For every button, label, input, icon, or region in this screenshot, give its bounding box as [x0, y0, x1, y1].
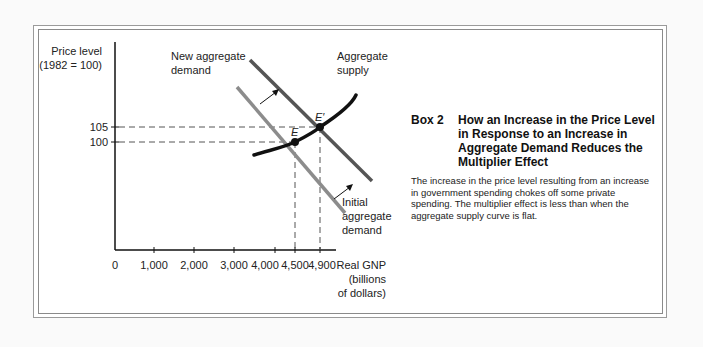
- y-tick-label-100: 100: [90, 136, 108, 148]
- x-tick-label-3000: 3,000: [220, 259, 248, 271]
- label-initial-aggregate-demand-line3: demand: [342, 224, 382, 236]
- x-axis-label-line1: Real GNP: [336, 259, 386, 271]
- caption-box-number: Box 2: [411, 113, 458, 169]
- x-axis-label-line2: (billions: [349, 273, 387, 285]
- series-new-aggregate-demand: [250, 60, 372, 181]
- y-tick-label-105: 105: [90, 121, 108, 133]
- x-tick-label-0: 0: [112, 259, 118, 271]
- shift-arrow-lower-head: [346, 184, 353, 191]
- series-initial-aggregate-demand: [237, 87, 345, 213]
- point-E: [291, 138, 299, 146]
- x-axis-label-line3: of dollars): [338, 287, 386, 299]
- y-axis-label-line2: (1982 = 100): [39, 59, 102, 71]
- label-initial-aggregate-demand-line1: Initial: [342, 196, 368, 208]
- label-new-aggregate-demand-line2: demand: [171, 64, 211, 76]
- x-tick-label-4000: 4,000: [251, 259, 279, 271]
- caption-heading: Box 2 How an Increase in the Price Level…: [411, 113, 661, 169]
- x-tick-label-2000: 2,000: [180, 259, 208, 271]
- shift-arrow-upper: [260, 92, 276, 104]
- x-tick-label-4500: 4,500: [281, 259, 309, 271]
- label-aggregate-supply-line1: Aggregate: [337, 50, 388, 62]
- caption-title: How an Increase in the Price Level in Re…: [458, 113, 661, 169]
- y-axis-label-line1: Price level: [51, 45, 102, 57]
- label-initial-aggregate-demand-line2: aggregate: [342, 210, 392, 222]
- shift-arrow-upper-head: [272, 89, 279, 96]
- point-label-E: E: [291, 126, 299, 138]
- point-label-E-prime: E′: [315, 111, 325, 123]
- caption-body: The increase in the price level resultin…: [411, 175, 656, 221]
- x-tick-label-1000: 1,000: [140, 259, 168, 271]
- point-E-prime: [316, 123, 324, 131]
- label-aggregate-supply-line2: supply: [337, 64, 369, 76]
- label-new-aggregate-demand-line1: New aggregate: [171, 50, 246, 62]
- x-tick-label-4900: 4,900: [308, 259, 336, 271]
- figure-caption: Box 2 How an Increase in the Price Level…: [411, 113, 661, 221]
